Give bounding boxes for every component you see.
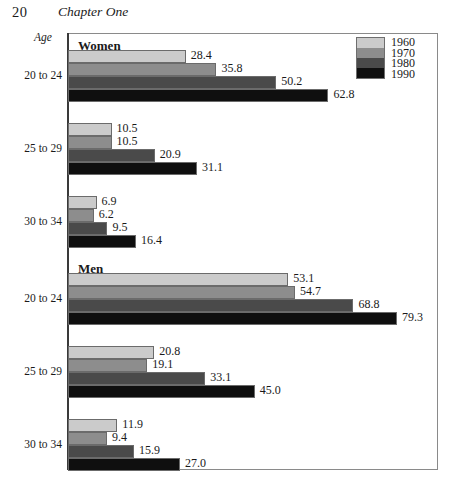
bar-1980 — [68, 76, 276, 89]
bar-1990 — [68, 458, 180, 471]
bar-1970 — [68, 136, 112, 149]
bar-value-label: 27.0 — [185, 457, 206, 470]
bar-1970 — [68, 286, 295, 299]
bar-1980 — [68, 372, 205, 385]
bar-1980 — [68, 222, 107, 235]
bar-value-label: 45.0 — [260, 384, 281, 397]
legend-label-1990: 1990 — [391, 69, 415, 80]
bar-1990 — [68, 235, 136, 248]
bar-1990 — [68, 162, 197, 175]
bar-1970 — [68, 63, 216, 76]
legend-swatch-1960 — [357, 38, 384, 48]
bar-value-label: 35.8 — [221, 62, 242, 75]
bar-1960 — [68, 419, 117, 432]
bar-value-label: 68.8 — [358, 298, 379, 311]
legend-swatch-1970 — [357, 48, 384, 58]
bar-value-label: 20.9 — [160, 148, 181, 161]
category-label-25-to-29: 25 to 29 — [2, 365, 62, 377]
legend-swatch-stack — [356, 37, 385, 79]
bar-1980 — [68, 445, 134, 458]
bar-1960 — [68, 273, 288, 286]
bar-value-label: 79.3 — [402, 311, 423, 324]
bar-value-label: 50.2 — [281, 75, 302, 88]
legend-swatch-1990 — [357, 68, 384, 78]
chapter-title: Chapter One — [58, 4, 128, 20]
category-label-20-to-24: 20 to 24 — [2, 69, 62, 81]
bar-1960 — [68, 123, 112, 136]
bar-value-label: 9.5 — [112, 221, 127, 234]
bar-1980 — [68, 299, 353, 312]
axis-label-age: Age — [34, 31, 52, 43]
page-header: 20 Chapter One — [0, 4, 452, 24]
bar-value-label: 62.8 — [333, 88, 354, 101]
bar-value-label: 33.1 — [210, 371, 231, 384]
bar-1990 — [68, 89, 328, 102]
legend-swatch-1980 — [357, 58, 384, 68]
category-label-20-to-24: 20 to 24 — [2, 292, 62, 304]
bar-1970 — [68, 209, 94, 222]
category-label-30-to-34: 30 to 34 — [2, 215, 62, 227]
bar-value-label: 16.4 — [141, 234, 162, 247]
legend-label-list: 1960 1970 1980 1990 — [391, 37, 415, 79]
bar-value-label: 28.4 — [191, 49, 212, 62]
bar-1990 — [68, 385, 255, 398]
bar-1980 — [68, 149, 155, 162]
bar-value-label: 15.9 — [139, 444, 160, 457]
bar-value-label: 54.7 — [300, 285, 321, 298]
bar-1960 — [68, 196, 97, 209]
page-number: 20 — [12, 4, 28, 21]
bar-value-label: 31.1 — [202, 161, 223, 174]
bar-1970 — [68, 432, 107, 445]
bar-value-label: 9.4 — [112, 431, 127, 444]
bar-1990 — [68, 312, 397, 325]
bar-1960 — [68, 50, 186, 63]
bar-value-label: 10.5 — [117, 135, 138, 148]
bar-value-label: 19.1 — [152, 358, 173, 371]
bar-1970 — [68, 359, 147, 372]
bar-1960 — [68, 346, 154, 359]
chart-legend: 1960 1970 1980 1990 — [356, 37, 415, 79]
category-label-25-to-29: 25 to 29 — [2, 142, 62, 154]
category-label-30-to-34: 30 to 34 — [2, 438, 62, 450]
